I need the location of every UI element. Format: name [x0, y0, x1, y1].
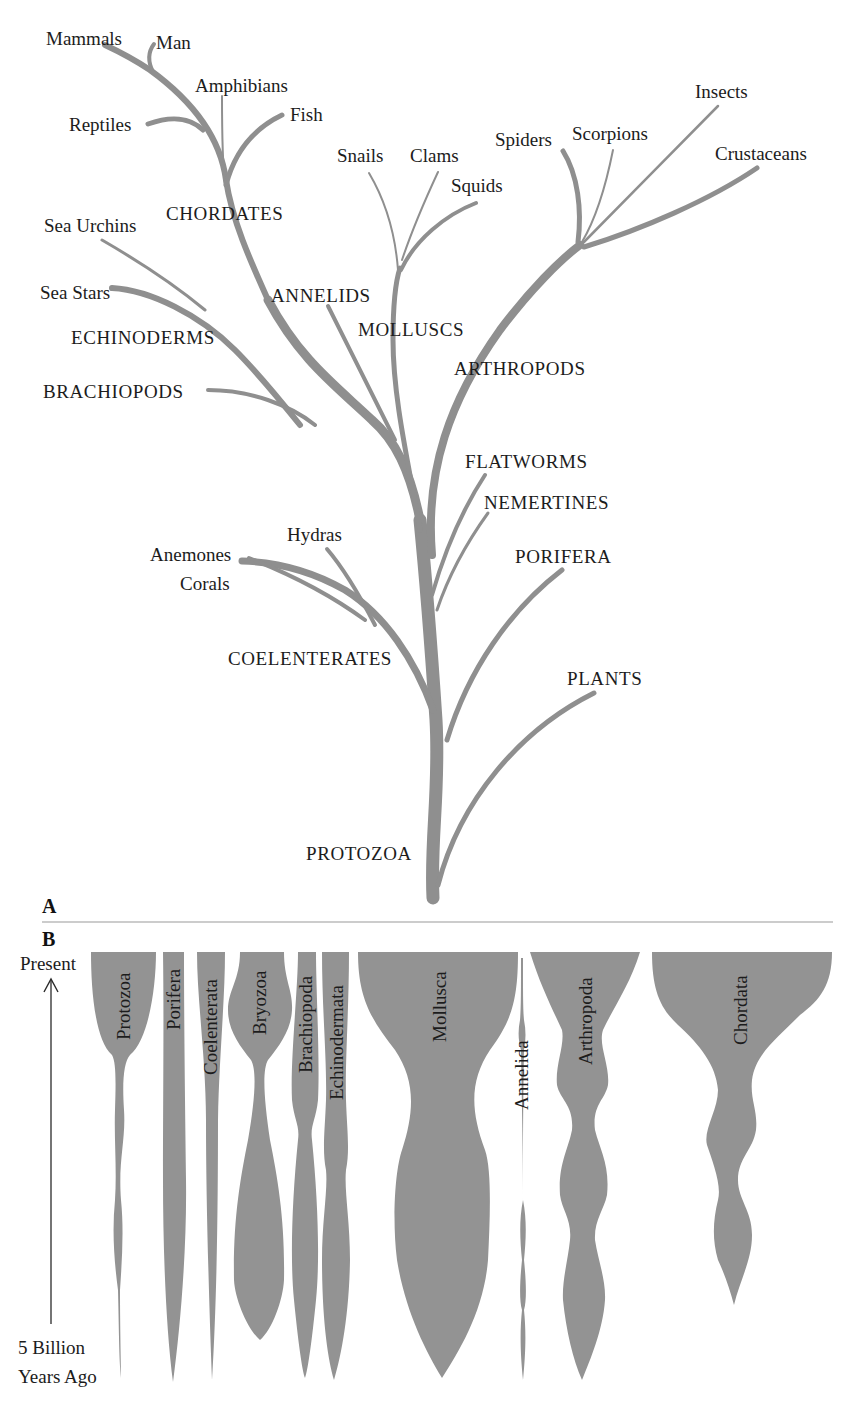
label-arthropods: ARTHROPODS — [454, 358, 586, 379]
label-bryozoa-phylum: Bryozoa — [249, 970, 270, 1035]
coelenterates-branch — [242, 561, 433, 710]
label-insects: Insects — [695, 81, 748, 102]
snails-branch — [369, 173, 398, 270]
spindle-annelida — [519, 958, 526, 1380]
label-scorpions: Scorpions — [572, 123, 648, 144]
label-mammals: Mammals — [46, 28, 122, 49]
crustaceans-branch — [584, 168, 757, 247]
label-chordates: CHORDATES — [166, 203, 283, 224]
man-branch — [149, 44, 154, 72]
label-brachiopods: BRACHIOPODS — [43, 381, 184, 402]
label-clams: Clams — [410, 145, 459, 166]
label-chordata-phylum: Chordata — [730, 975, 751, 1045]
label-snails: Snails — [337, 145, 383, 166]
label-annelids: ANNELIDS — [271, 285, 371, 306]
label-brachiopoda-phylum: Brachiopoda — [295, 975, 316, 1073]
label-echinoderms: ECHINODERMS — [71, 327, 215, 348]
label-nemertines: NEMERTINES — [484, 492, 609, 513]
spindle-diagram: Protozoa Porifera Coelenterata Bryozoa B… — [91, 952, 832, 1382]
time-axis: Present 5 Billion Years Ago — [18, 953, 97, 1387]
label-fish: Fish — [290, 104, 323, 125]
label-porifera: PORIFERA — [515, 546, 612, 567]
label-hydras: Hydras — [287, 524, 342, 545]
flatworms-branch — [432, 475, 485, 595]
squids-branch — [401, 203, 476, 270]
label-plants: PLANTS — [567, 668, 642, 689]
panel-a-label: A — [42, 895, 57, 917]
label-molluscs: MOLLUSCS — [358, 319, 464, 340]
label-coelenterates: COELENTERATES — [228, 648, 392, 669]
label-sea-stars: Sea Stars — [40, 282, 110, 303]
label-echinodermata-phylum: Echinodermata — [326, 984, 347, 1100]
evolution-figure: Mammals Man Amphibians Fish Reptiles CHO… — [0, 0, 865, 1414]
label-corals: Corals — [180, 573, 230, 594]
label-amphibians: Amphibians — [195, 75, 288, 96]
spiders-branch — [563, 151, 579, 242]
label-anemones: Anemones — [150, 544, 231, 565]
label-mollusca-phylum: Mollusca — [429, 971, 450, 1042]
axis-label-present: Present — [20, 953, 77, 974]
label-protozoa: PROTOZOA — [306, 843, 412, 864]
label-squids: Squids — [451, 175, 503, 196]
label-man: Man — [156, 32, 191, 53]
porifera-branch — [447, 570, 562, 740]
axis-label-years-ago: Years Ago — [18, 1366, 97, 1387]
reptiles-branch — [148, 119, 203, 130]
label-crustaceans: Crustaceans — [715, 143, 807, 164]
panel-b-label: B — [42, 928, 55, 950]
label-reptiles: Reptiles — [69, 114, 131, 135]
clams-branch — [402, 172, 438, 260]
label-arthropoda-phylum: Arthropoda — [575, 977, 596, 1065]
label-porifera-phylum: Porifera — [163, 968, 184, 1030]
phylogenetic-tree: Mammals Man Amphibians Fish Reptiles CHO… — [40, 28, 807, 898]
label-protozoa-phylum: Protozoa — [113, 972, 134, 1040]
label-sea-urchins: Sea Urchins — [44, 215, 136, 236]
plants-branch — [438, 693, 594, 885]
axis-label-5-billion: 5 Billion — [18, 1337, 86, 1358]
label-annelida-phylum: Annelida — [511, 1040, 532, 1110]
label-flatworms: FLATWORMS — [465, 451, 588, 472]
label-coelenterata-phylum: Coelenterata — [200, 978, 221, 1075]
fish-branch — [226, 115, 282, 185]
label-spiders: Spiders — [495, 129, 552, 150]
